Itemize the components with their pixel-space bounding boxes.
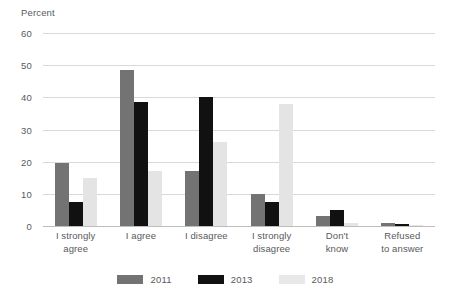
y-axis-title: Percent [21,7,55,18]
y-tick-label-50: 50 [21,60,32,71]
x-tick-label: Don't know [304,230,369,255]
legend-label-2011: 2011 [150,274,171,285]
y-axis-tick-labels: 0102030405060 [0,33,43,226]
bar-group [174,33,239,226]
x-tick-label: I disagree [174,230,239,255]
bar-2011[interactable] [55,163,69,226]
bar-2011[interactable] [316,216,330,226]
legend-item-2011[interactable]: 2011 [117,274,171,285]
bar-2018[interactable] [213,142,227,226]
legend-swatch-2018 [279,275,305,284]
bar-group [239,33,304,226]
bar-2013[interactable] [199,97,213,226]
x-tick-label: I strongly disagree [239,230,304,255]
y-tick-label-30: 30 [21,124,32,135]
bar-2013[interactable] [395,224,409,226]
bar-2018[interactable] [344,223,358,226]
bar-chart: Percent 0102030405060 I strongly agreeI … [0,0,451,303]
bar-2011[interactable] [120,70,134,226]
bar-group [304,33,369,226]
bar-group [43,33,108,226]
y-tick-label-10: 10 [21,188,32,199]
legend-swatch-2011 [117,275,143,284]
bar-2011[interactable] [381,223,395,226]
bar-2013[interactable] [69,202,83,226]
bar-2013[interactable] [265,202,279,226]
bar-2011[interactable] [251,194,265,226]
y-tick-label-60: 60 [21,28,32,39]
bar-group [370,33,435,226]
bar-groups [43,33,435,226]
legend-swatch-2013 [198,275,224,284]
bar-2013[interactable] [330,210,344,226]
bar-2018[interactable] [409,225,423,226]
bar-2011[interactable] [185,171,199,226]
legend-label-2013: 2013 [231,274,253,285]
x-tick-label: I strongly agree [43,230,108,255]
y-tick-label-0: 0 [27,221,32,232]
legend-label-2018: 2018 [312,274,334,285]
plot-area [43,33,435,226]
y-tick-label-20: 20 [21,156,32,167]
legend-item-2018[interactable]: 2018 [279,274,334,285]
y-tick-label-40: 40 [21,92,32,103]
bar-2018[interactable] [83,178,97,226]
x-axis-category-labels: I strongly agreeI agreeI disagreeI stron… [43,230,435,255]
x-tick-label: Refused to answer [370,230,435,255]
x-tick-label: I agree [108,230,173,255]
bar-2018[interactable] [148,171,162,226]
chart-legend: 201120132018 [0,274,451,285]
gridline-0 [43,226,435,227]
bar-2018[interactable] [279,104,293,226]
bar-group [108,33,173,226]
bar-2013[interactable] [134,102,148,226]
legend-item-2013[interactable]: 2013 [198,274,253,285]
